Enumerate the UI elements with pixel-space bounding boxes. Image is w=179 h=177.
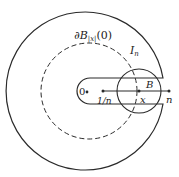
- inner-point: [102, 90, 105, 93]
- outer-point: [168, 90, 171, 93]
- origin-point: [86, 91, 89, 94]
- inner-point-label: 1/n: [97, 96, 112, 106]
- ball-label: B: [145, 79, 153, 90]
- x-label: x: [140, 94, 146, 105]
- origin-label: 0: [79, 86, 85, 97]
- keyhole-contour-diagram: ∂B|x|(0) In 0 1/n B x n: [0, 0, 179, 177]
- x-point: [138, 90, 141, 93]
- boundary-ball-label: ∂B|x|(0): [74, 29, 112, 43]
- contour-label: In: [129, 44, 139, 58]
- outer-point-label: n: [166, 94, 172, 105]
